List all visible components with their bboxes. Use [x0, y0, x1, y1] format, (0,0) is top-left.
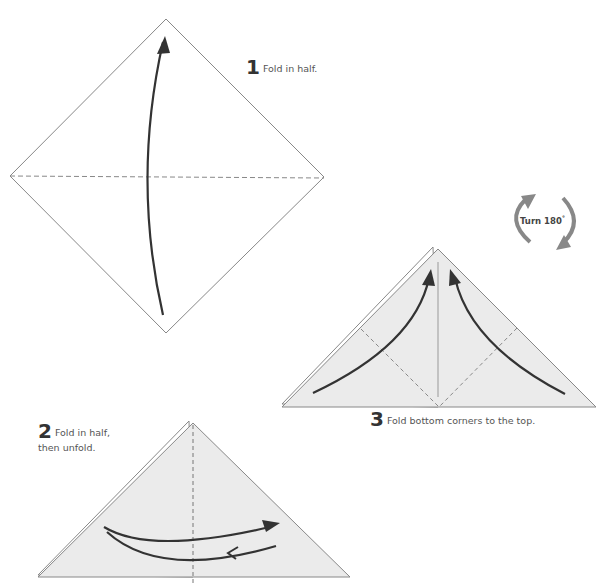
step3-diagram: [282, 247, 596, 407]
turn-180-label: Turn 180°: [520, 214, 565, 226]
step3-number: 3: [370, 407, 384, 431]
step2-label: 2Fold in half, then unfold.: [38, 424, 110, 455]
origami-diagram: [0, 0, 611, 588]
folded-triangle: [282, 249, 596, 407]
step2-text-line1: Fold in half,: [55, 427, 110, 438]
step1-text: Fold in half.: [263, 63, 317, 74]
step2-text-line2: then unfold.: [38, 440, 110, 455]
step3-text: Fold bottom corners to the top.: [387, 415, 535, 426]
step1-number: 1: [246, 55, 260, 79]
step1-label: 1Fold in half.: [246, 60, 317, 76]
step3-label: 3Fold bottom corners to the top.: [370, 412, 535, 428]
